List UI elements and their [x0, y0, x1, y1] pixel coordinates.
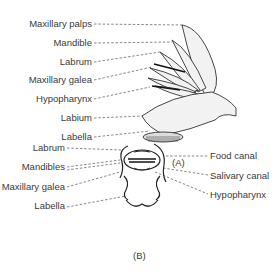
diagram-drawing [0, 0, 277, 274]
proboscis-cross-section [120, 144, 166, 206]
